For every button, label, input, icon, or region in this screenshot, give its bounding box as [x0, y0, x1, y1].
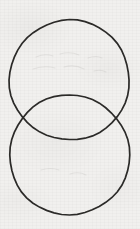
lower-circle	[10, 95, 130, 215]
figure-canvas	[0, 0, 140, 229]
upper-circle	[9, 19, 129, 139]
two-circles-diagram	[0, 0, 140, 229]
